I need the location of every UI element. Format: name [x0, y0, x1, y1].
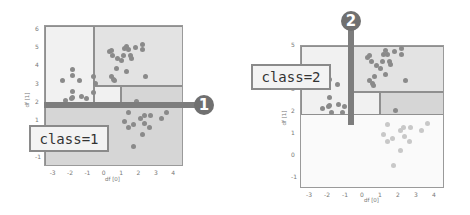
- data-point: [335, 82, 340, 87]
- data-point: [371, 83, 376, 88]
- right-xlabel: df [0]: [364, 197, 379, 203]
- class-label-2: class=2: [251, 64, 331, 90]
- x-tick-label: 3: [414, 191, 418, 198]
- decision-region: [94, 26, 183, 86]
- y-tick-label: 6: [35, 25, 39, 32]
- x-tick-label: -2: [324, 191, 330, 198]
- data-point: [133, 45, 138, 50]
- y-tick-label: 0: [291, 151, 295, 158]
- decision-region: [351, 46, 444, 92]
- split-bar-vertical: [348, 28, 354, 125]
- data-point: [77, 78, 82, 83]
- decision-region: [351, 92, 380, 115]
- data-point: [126, 125, 131, 130]
- step-badge-2: 2: [341, 11, 361, 31]
- data-point: [369, 59, 374, 64]
- data-point: [70, 67, 75, 72]
- data-point: [388, 62, 393, 67]
- y-tick-label: 5: [35, 43, 39, 50]
- data-point: [329, 110, 334, 115]
- y-tick-label: -1: [291, 173, 297, 180]
- data-point: [398, 148, 403, 153]
- data-point: [342, 104, 347, 109]
- x-tick-label: 2: [137, 169, 141, 176]
- data-point: [407, 139, 412, 144]
- y-tick-label: 2: [35, 98, 39, 105]
- decision-region: [45, 26, 94, 106]
- data-point: [403, 78, 408, 83]
- decision-region: [380, 92, 444, 115]
- split-bar-horizontal: [44, 102, 196, 108]
- x-tick-label: 2: [396, 191, 400, 198]
- left-ylabel: df [1]: [24, 93, 30, 108]
- x-tick-label: 4: [171, 169, 175, 176]
- data-point: [70, 89, 75, 94]
- data-point: [91, 74, 96, 79]
- data-point: [129, 56, 134, 61]
- class-label-1: class=1: [29, 125, 109, 152]
- y-tick-label: 4: [35, 61, 39, 68]
- y-tick-label: 2: [291, 107, 295, 114]
- y-tick-label: 3: [35, 80, 39, 87]
- y-tick-label: 5: [291, 41, 295, 48]
- right-ylabel: df [1]: [281, 111, 287, 126]
- y-tick-label: 1: [291, 129, 295, 136]
- data-point: [147, 125, 152, 130]
- x-tick-label: -3: [306, 191, 312, 198]
- data-point: [378, 66, 383, 71]
- decision-region: [301, 115, 444, 188]
- x-tick-label: -3: [50, 169, 56, 176]
- left-xlabel: df [0]: [105, 176, 120, 182]
- data-point: [425, 121, 430, 126]
- x-tick-label: -1: [84, 169, 90, 176]
- data-point: [159, 116, 164, 121]
- data-point: [380, 59, 385, 64]
- data-point: [381, 132, 386, 137]
- data-point: [140, 42, 145, 47]
- data-point: [114, 66, 119, 71]
- x-tick-label: 1: [119, 169, 123, 176]
- x-tick-label: 4: [432, 191, 436, 198]
- data-point: [385, 122, 390, 127]
- x-tick-label: 0: [102, 169, 106, 176]
- data-point: [140, 132, 145, 137]
- x-tick-label: -2: [67, 169, 73, 176]
- data-point: [402, 134, 407, 139]
- x-tick-label: 3: [154, 169, 158, 176]
- left-panel: 6543210-1 -3-2-101234 df [1] df [0] 1 cl…: [0, 0, 235, 215]
- data-point: [401, 125, 406, 130]
- step-badge-1: 1: [194, 95, 214, 115]
- data-point: [142, 113, 147, 118]
- y-tick-label: 1: [35, 116, 39, 123]
- data-point: [84, 96, 89, 101]
- data-point: [164, 110, 169, 115]
- data-point: [121, 53, 126, 58]
- y-tick-label: -1: [35, 153, 41, 160]
- data-point: [340, 110, 345, 115]
- right-panel: 53210-1 -3-2-101234 df [1] df [0] 2 clas…: [235, 0, 470, 215]
- x-tick-label: -1: [342, 191, 348, 198]
